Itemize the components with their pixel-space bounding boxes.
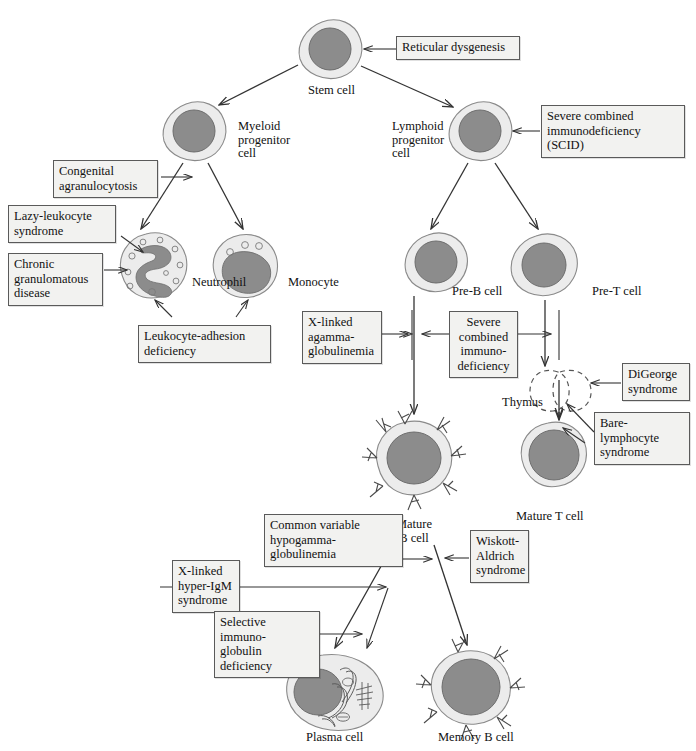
arrow-lad-to-monocyte	[236, 300, 248, 317]
arrow-lymphoid-to-preb	[431, 163, 468, 229]
cell-myeloid-progenitor	[163, 102, 226, 161]
immunodeficiency-lineage-diagram: Stem cell Myeloid progenitor cell Lympho…	[0, 0, 696, 751]
disease-box-digeorge-syndrome[interactable]: DiGeorge syndrome	[622, 363, 690, 401]
disease-box-chronic-granulomatous-disease[interactable]: Chronic granulomatous disease	[8, 253, 103, 306]
disease-box-congenital-agranulocytosis[interactable]: Congenital agranulocytosis	[53, 160, 158, 198]
arrow-matureb-to-memoryb	[434, 545, 467, 645]
label-stem-cell: Stem cell	[308, 84, 355, 98]
disease-box-x-linked-agammaglobulinemia[interactable]: X-linked agamma- globulinemia	[302, 311, 382, 364]
disease-box-wiskott-aldrich-syndrome[interactable]: Wiskott- Aldrich syndrome	[470, 530, 529, 583]
label-thymus: Thymus	[502, 396, 543, 410]
label-lymphoid-progenitor-cell: Lymphoid progenitor cell	[392, 120, 444, 161]
disease-box-common-variable-hypogammaglobulinemia[interactable]: Common variable hypogamma- globulinemia	[264, 514, 403, 567]
label-memory-b-cell: Memory B cell	[438, 731, 514, 745]
arrow-stem-to-lymphoid	[361, 66, 453, 107]
label-neutrophil: Neutrophil	[192, 276, 246, 290]
disease-box-lazy-leukocyte-syndrome[interactable]: Lazy-leukocyte syndrome	[8, 205, 116, 243]
cell-lymphoid-progenitor	[449, 102, 512, 161]
cell-pre-b-cell	[405, 233, 467, 292]
disease-box-x-linked-hyper-igm-syndrome[interactable]: X-linked hyper-IgM syndrome	[172, 560, 240, 613]
disease-box-severe-combined-immunodeficiency-scid[interactable]: Severe combined immunodeficiency (SCID)	[541, 105, 685, 158]
arrow-stem-to-myeloid	[219, 65, 298, 105]
arrow-hyperigm-tip	[367, 588, 388, 648]
arrow-myeloid-to-monocyte	[208, 163, 243, 229]
disease-box-reticular-dysgenesis[interactable]: Reticular dysgenesis	[396, 36, 520, 60]
cell-pre-t-cell	[511, 234, 577, 296]
label-myeloid-progenitor-cell: Myeloid progenitor cell	[238, 120, 290, 161]
arrow-lymphoid-to-pret	[495, 163, 538, 229]
cell-mature-b-cell	[362, 411, 466, 510]
cell-memory-b-cell	[416, 639, 525, 740]
disease-box-bare-lymphocyte-syndrome[interactable]: Bare-lymphocyte syndrome	[594, 412, 690, 465]
label-plasma-cell: Plasma cell	[306, 731, 363, 745]
label-pre-b-cell: Pre-B cell	[452, 285, 502, 299]
arrow-lad-to-neutrophil	[155, 300, 172, 317]
cell-mature-t-cell	[521, 422, 586, 487]
label-mature-t-cell: Mature T cell	[516, 510, 584, 524]
label-monocyte: Monocyte	[288, 276, 339, 290]
disease-box-severe-combined-immunodeficiency[interactable]: Severe combined immuno- deficiency	[449, 311, 518, 378]
cell-stem-cell	[299, 20, 362, 79]
label-pre-t-cell: Pre-T cell	[592, 285, 641, 299]
disease-box-selective-immunoglobulin-deficiency[interactable]: Selective immuno- globulin deficiency	[214, 611, 320, 678]
disease-box-leukocyte-adhesion-deficiency[interactable]: Leukocyte-adhesion deficiency	[138, 325, 271, 363]
